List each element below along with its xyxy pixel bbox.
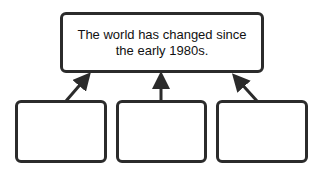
bottom-box-2 (116, 100, 207, 163)
bottom-box-1 (15, 100, 107, 163)
arrow-right (238, 80, 257, 101)
top-box-text: The world has changed since the early 19… (72, 27, 252, 59)
top-box: The world has changed since the early 19… (60, 12, 264, 73)
bottom-box-3 (216, 100, 308, 163)
arrow-left (66, 79, 85, 101)
